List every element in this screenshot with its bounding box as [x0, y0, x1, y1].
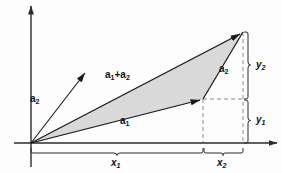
figure-canvas [0, 0, 282, 173]
label-y1: y1 [256, 115, 265, 125]
label-y1-sub: 1 [262, 119, 266, 126]
label-vector-sum: a1+a2 [105, 70, 130, 80]
label-y2-sub: 2 [262, 64, 266, 71]
brace-x2 [204, 148, 243, 156]
label-vector-a2-free: a2 [30, 94, 39, 104]
label-y2: y2 [256, 60, 265, 70]
label-sum-sub-second: 2 [126, 74, 130, 81]
label-a2-free-text: a [30, 93, 36, 104]
label-x1: x1 [111, 158, 120, 168]
label-vector-a1: a1 [120, 116, 129, 126]
brace-y1 [244, 100, 251, 143]
label-x2: x2 [217, 158, 226, 168]
label-sum-a-first: a [105, 69, 111, 80]
label-a1-text: a [120, 115, 126, 126]
label-a2-free-sub: 2 [36, 98, 40, 105]
label-sum-sub-first: 1 [111, 74, 115, 81]
label-a2-trans-sub: 2 [225, 68, 229, 75]
label-x2-sub: 2 [223, 162, 227, 169]
label-x2-text: x [217, 157, 223, 168]
brace-x1 [31, 148, 203, 156]
label-x1-text: x [111, 157, 117, 168]
label-vector-a2-translated: a2 [219, 64, 228, 74]
label-y2-text: y [256, 59, 262, 70]
label-x1-sub: 1 [117, 162, 121, 169]
brace-y2 [244, 32, 251, 99]
label-y1-text: y [256, 114, 262, 125]
label-a2-trans-text: a [219, 63, 225, 74]
vector-addition-figure: a2 a1+a2 a1 a2 y2 y1 x1 x2 [0, 0, 282, 173]
label-a1-sub: 1 [126, 120, 130, 127]
